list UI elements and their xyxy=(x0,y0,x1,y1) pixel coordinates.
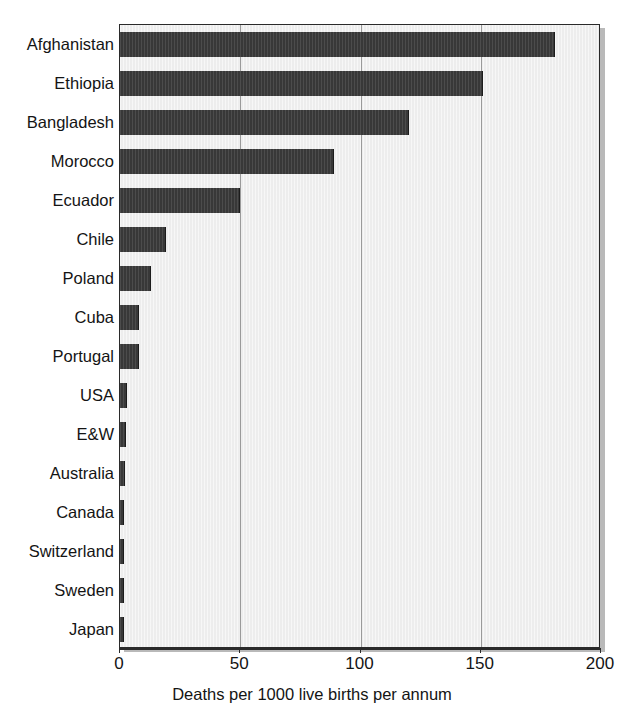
bar-row xyxy=(120,227,599,251)
bar-row xyxy=(120,305,599,329)
bar-sweden xyxy=(120,578,124,602)
bar-row xyxy=(120,71,599,95)
bar-row xyxy=(120,188,599,212)
bar-ethiopia xyxy=(120,71,483,95)
bar-row xyxy=(120,266,599,290)
bar-row xyxy=(120,149,599,173)
y-axis-label-e-w: E&W xyxy=(0,426,114,443)
bar-usa xyxy=(120,383,127,407)
bars-layer xyxy=(120,25,599,647)
x-tick-label-200: 200 xyxy=(586,655,614,672)
bar-chart: AfghanistanEthiopiaBangladeshMoroccoEcua… xyxy=(0,0,624,717)
bar-canada xyxy=(120,500,124,524)
y-axis-label-morocco: Morocco xyxy=(0,153,114,170)
x-tick-label-0: 0 xyxy=(114,655,123,672)
y-axis-label-japan: Japan xyxy=(0,621,114,638)
bar-row xyxy=(120,344,599,368)
y-axis-label-portugal: Portugal xyxy=(0,348,114,365)
y-axis-label-chile: Chile xyxy=(0,231,114,248)
bar-row xyxy=(120,617,599,641)
bar-japan xyxy=(120,617,124,641)
x-axis-title: Deaths per 1000 live births per annum xyxy=(0,686,624,703)
bar-row xyxy=(120,32,599,56)
bar-row xyxy=(120,110,599,134)
y-axis-label-canada: Canada xyxy=(0,504,114,521)
bar-row xyxy=(120,461,599,485)
bar-row xyxy=(120,383,599,407)
x-tick-label-150: 150 xyxy=(466,655,494,672)
bar-row xyxy=(120,500,599,524)
y-axis-label-australia: Australia xyxy=(0,465,114,482)
x-tick-label-50: 50 xyxy=(230,655,249,672)
bar-cuba xyxy=(120,305,139,329)
bar-bangladesh xyxy=(120,110,409,134)
x-tick-50 xyxy=(239,648,240,653)
bar-afghanistan xyxy=(120,32,555,56)
bar-morocco xyxy=(120,149,334,173)
x-tick-label-100: 100 xyxy=(345,655,373,672)
x-tick-100 xyxy=(360,648,361,653)
bar-switzerland xyxy=(120,539,124,563)
bar-e-w xyxy=(120,422,126,446)
y-axis-label-usa: USA xyxy=(0,387,114,404)
bar-row xyxy=(120,578,599,602)
y-axis-label-switzerland: Switzerland xyxy=(0,543,114,560)
y-axis-label-afghanistan: Afghanistan xyxy=(0,36,114,53)
x-tick-150 xyxy=(480,648,481,653)
bar-ecuador xyxy=(120,188,240,212)
y-axis-label-poland: Poland xyxy=(0,270,114,287)
bar-poland xyxy=(120,266,151,290)
bar-chile xyxy=(120,227,166,251)
y-axis-label-ethiopia: Ethiopia xyxy=(0,75,114,92)
bar-row xyxy=(120,539,599,563)
y-axis-label-sweden: Sweden xyxy=(0,582,114,599)
x-tick-0 xyxy=(119,648,120,653)
y-axis-label-bangladesh: Bangladesh xyxy=(0,114,114,131)
y-axis-category-labels: AfghanistanEthiopiaBangladeshMoroccoEcua… xyxy=(0,24,114,648)
y-axis-label-ecuador: Ecuador xyxy=(0,192,114,209)
bar-row xyxy=(120,422,599,446)
bar-australia xyxy=(120,461,125,485)
bar-portugal xyxy=(120,344,139,368)
y-axis-label-cuba: Cuba xyxy=(0,309,114,326)
x-tick-200 xyxy=(600,648,601,653)
plot-area xyxy=(119,24,600,648)
